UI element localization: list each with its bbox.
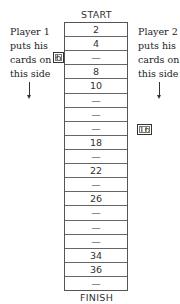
player2-line: Player 2 bbox=[138, 25, 179, 39]
board-cell: 10 bbox=[65, 79, 127, 93]
card-value: 6 bbox=[56, 53, 62, 63]
board-cell: — bbox=[65, 206, 127, 220]
player2-line: this side bbox=[138, 67, 179, 81]
player1-line: cards on bbox=[10, 53, 51, 67]
board-cell: — bbox=[65, 221, 127, 235]
board-cell: — bbox=[65, 178, 127, 192]
board-cell: — bbox=[65, 94, 127, 108]
board-cell: 26 bbox=[65, 192, 127, 206]
board-cell: — bbox=[65, 51, 127, 65]
down-arrow-icon bbox=[159, 82, 160, 96]
number-board: 2 4 — 8 10 — — — 18 — 22 — 26 — — — 34 3… bbox=[64, 22, 128, 291]
board-cell: 22 bbox=[65, 164, 127, 178]
player1-instructions: Player 1 puts his cards on this side bbox=[10, 25, 51, 81]
board-cell: 8 bbox=[65, 65, 127, 79]
player2-line: cards on bbox=[138, 53, 179, 67]
down-arrow-icon bbox=[29, 82, 30, 96]
player2-line: puts his bbox=[138, 39, 179, 53]
finish-label: FINISH bbox=[64, 292, 129, 303]
board-cell: 4 bbox=[65, 37, 127, 51]
player1-line: Player 1 bbox=[10, 25, 51, 39]
board-cell: — bbox=[65, 150, 127, 164]
board-cell: 2 bbox=[65, 23, 127, 37]
board-cell: 34 bbox=[65, 249, 127, 263]
player2-card: 16 bbox=[137, 124, 152, 135]
player1-line: this side bbox=[10, 67, 51, 81]
board-cell: 36 bbox=[65, 263, 127, 277]
player1-card: 6 bbox=[53, 52, 64, 63]
board-cell: 18 bbox=[65, 136, 127, 150]
card-value: 16 bbox=[139, 125, 150, 135]
board-cell: — bbox=[65, 235, 127, 249]
player2-instructions: Player 2 puts his cards on this side bbox=[138, 25, 179, 81]
board-cell: — bbox=[65, 122, 127, 136]
board-cell: — bbox=[65, 277, 127, 290]
player1-line: puts his bbox=[10, 39, 51, 53]
board-cell: — bbox=[65, 108, 127, 122]
start-label: START bbox=[64, 9, 129, 20]
